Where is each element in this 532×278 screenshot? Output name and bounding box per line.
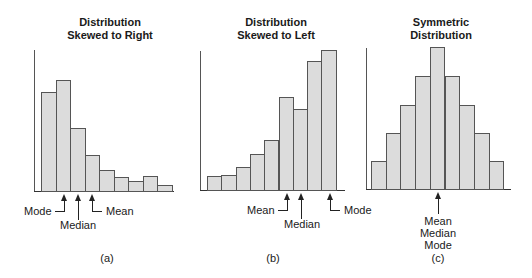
- histogram-bar: [41, 92, 57, 192]
- caption-a: (a): [87, 252, 127, 264]
- histogram-bar: [70, 128, 86, 192]
- label-median: Median: [284, 218, 320, 231]
- histogram-bar: [236, 167, 251, 191]
- title-line-1: Distribution: [40, 16, 180, 29]
- y-axis: [34, 50, 35, 192]
- histogram-bar: [293, 109, 308, 191]
- label-mode: Mode: [24, 205, 52, 218]
- y-axis: [200, 51, 201, 191]
- histogram-bar: [321, 50, 336, 191]
- caption-c: (c): [418, 252, 458, 264]
- histogram-bar: [430, 47, 446, 190]
- arrow-median-shaft: [78, 200, 79, 220]
- histogram-bar: [459, 105, 475, 190]
- label-mean: Mean: [106, 205, 134, 218]
- histogram-bar: [128, 181, 144, 192]
- y-axis: [366, 48, 367, 190]
- title-line-1: Symmetric: [371, 16, 511, 29]
- histogram-bar: [386, 133, 402, 190]
- arrow-center-shaft: [438, 198, 439, 214]
- arrow-mean-leader: [278, 210, 288, 211]
- histogram-bar: [371, 161, 387, 190]
- title-line-2: Distribution: [371, 29, 511, 42]
- label-mean: Mean: [247, 204, 275, 217]
- histogram-bar: [279, 97, 294, 191]
- title-line-2: Skewed to Left: [206, 29, 346, 42]
- histogram-bar: [307, 61, 322, 191]
- arrow-mode-leader: [330, 210, 340, 211]
- label-mode: Mode: [413, 239, 463, 252]
- histogram-bar: [415, 76, 431, 190]
- title-line-2: Skewed to Right: [40, 29, 180, 42]
- caption-b: (b): [253, 252, 293, 264]
- histogram-bar: [264, 140, 279, 191]
- histogram-bar: [400, 105, 416, 190]
- title-line-1: Distribution: [206, 16, 346, 29]
- histogram-bar: [85, 155, 101, 192]
- histogram-bar: [99, 170, 115, 192]
- histogram-bar: [143, 176, 159, 192]
- histogram-bar: [157, 185, 173, 192]
- histogram-bar: [474, 133, 490, 190]
- histogram-bar: [207, 176, 222, 191]
- arrow-mode-leader: [55, 211, 65, 212]
- panel-b-title: Distribution Skewed to Left: [206, 16, 346, 42]
- label-mode: Mode: [344, 204, 372, 217]
- histogram-bar: [114, 177, 130, 192]
- histogram-bar: [489, 161, 505, 190]
- arrow-median-shaft: [301, 199, 302, 219]
- arrow-mean-leader: [92, 211, 102, 212]
- panel-c-title: Symmetric Distribution: [371, 16, 511, 42]
- panel-a-title: Distribution Skewed to Right: [40, 16, 180, 42]
- label-median: Median: [60, 219, 96, 232]
- histogram-bar: [221, 175, 236, 191]
- histogram-bar: [250, 154, 265, 191]
- histogram-bar: [445, 76, 461, 190]
- histogram-bar: [56, 80, 72, 192]
